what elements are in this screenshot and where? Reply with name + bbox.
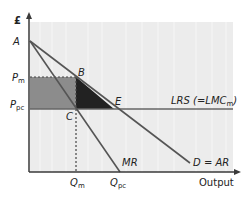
- x-axis-label: Output: [199, 177, 234, 188]
- ppc-label: Ppc: [10, 99, 24, 112]
- qpc-label: Qpc: [110, 177, 126, 190]
- y-axis-label: £: [14, 15, 21, 26]
- mr-label: MR: [122, 157, 138, 168]
- point-a-label: A: [12, 36, 20, 47]
- point-c-label: C: [66, 111, 73, 122]
- pm-label: Pm: [12, 72, 25, 85]
- x-axis-arrow-icon: [234, 169, 241, 175]
- economics-diagram: £ Output A B C E Pm Ppc Qm Qpc MR D = AR…: [0, 0, 248, 197]
- point-b-label: B: [78, 67, 85, 78]
- qm-label: Qm: [70, 177, 85, 190]
- demand-label: D = AR: [193, 157, 229, 168]
- point-e-label: E: [115, 96, 122, 107]
- y-axis-arrow-icon: [26, 12, 32, 19]
- surplus-transfer-rectangle: [30, 77, 76, 109]
